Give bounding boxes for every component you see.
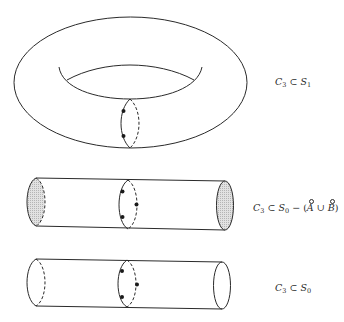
torus-outer-edge (14, 17, 247, 148)
mid-section-front (119, 180, 128, 229)
torus-meridian-back (130, 99, 139, 148)
label-subscript: 1 (307, 81, 311, 89)
torus-hole-front-arc (59, 67, 202, 99)
minus-symbol: − (292, 202, 300, 213)
subset-symbol: ⊂ (289, 282, 297, 293)
subset-symbol: ⊂ (289, 76, 297, 87)
mid-section-back (127, 260, 136, 307)
diagram-canvas (0, 0, 344, 322)
label-symbol-a-interior: A (307, 202, 314, 213)
label-symbol-b-interior: B (328, 202, 335, 213)
curve-point (135, 203, 139, 207)
cylinder-top-edge (36, 178, 225, 181)
curve-point (122, 109, 126, 113)
cylinder-bottom-edge (36, 306, 222, 309)
label-cylinder-open: C3 ⊂ S0 (275, 282, 311, 295)
torus (14, 17, 247, 148)
curve-point (135, 283, 139, 287)
curve-point (121, 215, 125, 219)
left-end-front (27, 259, 36, 306)
label-subscript: 0 (307, 287, 311, 295)
label-subscript: 3 (282, 287, 286, 295)
label-subscript: 3 (282, 81, 286, 89)
right-end-rim (214, 262, 231, 309)
cylinder-shaded (27, 178, 234, 230)
cylinder-open (27, 259, 231, 309)
label-torus: C3 ⊂ S1 (275, 76, 311, 89)
label-subscript: 3 (260, 207, 264, 215)
paren-right: ) (335, 202, 339, 213)
left-end-back (36, 259, 45, 306)
curve-point (122, 134, 126, 138)
subset-symbol: ⊂ (267, 202, 275, 213)
right-end-disc (217, 181, 234, 230)
torus-meridian-front (121, 99, 130, 148)
mid-section-front (118, 260, 127, 307)
union-symbol: ∪ (317, 202, 325, 213)
label-cylinder-shaded: C3 ⊂ S0 − (A ∪ B) (253, 202, 338, 215)
cylinder-open-curve-points (120, 269, 139, 299)
torus-hole-back-arc (67, 65, 194, 80)
curve-point (121, 190, 125, 194)
label-subscript: 0 (285, 207, 289, 215)
curve-point (120, 295, 124, 299)
curve-point (120, 269, 124, 273)
